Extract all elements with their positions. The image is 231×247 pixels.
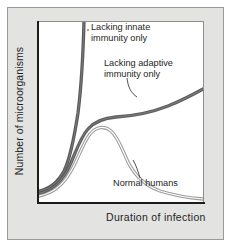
y-axis-line <box>37 21 39 204</box>
plot-curves <box>38 21 204 203</box>
leader-line-lacking-adaptive <box>127 78 137 97</box>
figure-container: Number of microorganisms Duration of inf… <box>0 0 231 247</box>
annotation-normal-humans-line1: Normal humans <box>113 178 178 189</box>
y-axis-label: Number of microorganisms <box>13 23 25 199</box>
annotation-lacking-innate: Lacking innate immunity only <box>91 22 150 43</box>
annotation-lacking-innate-line2: immunity only <box>91 33 150 44</box>
annotation-lacking-adaptive-line2: immunity only <box>104 69 173 80</box>
x-axis-label: Duration of infection <box>106 211 206 223</box>
curve-lacking-innate <box>39 21 84 191</box>
annotation-lacking-adaptive-line1: Lacking adaptive <box>104 58 173 69</box>
annotation-lacking-adaptive: Lacking adaptive immunity only <box>104 58 173 79</box>
annotation-normal-humans: Normal humans <box>113 178 178 189</box>
x-axis-line <box>37 202 205 204</box>
annotation-lacking-innate-line1: Lacking innate <box>91 22 150 33</box>
